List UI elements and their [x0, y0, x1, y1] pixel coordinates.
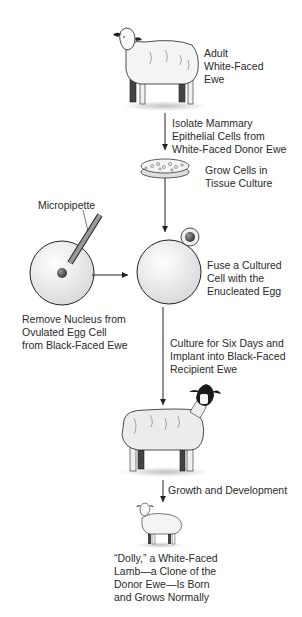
label-line: Fuse a Cultured [207, 259, 282, 272]
label-line: Epithelial Cells from [172, 130, 286, 143]
label-line: White-Faced Donor Ewe [172, 143, 286, 156]
label-line: Tissue Culture [205, 177, 272, 190]
egg-cell-with-micropipette [30, 210, 100, 305]
label-line: Cell with the [207, 272, 282, 285]
label-line: Adult [204, 47, 264, 60]
label-line: Recipient Ewe [170, 363, 286, 376]
label-growth-development: Growth and Development [168, 484, 287, 497]
label-culture-implant: Culture for Six Days and Implant into Bl… [170, 337, 286, 376]
label-remove-nucleus: Remove Nucleus from Ovulated Egg Cell fr… [22, 313, 128, 352]
label-line: White-Faced [204, 60, 264, 73]
label-fuse-cell: Fuse a Cultured Cell with the Enucleated… [207, 259, 282, 298]
label-line: from Black-Faced Ewe [22, 339, 128, 352]
label-dolly-born: “Dolly,” a White-Faced Lamb—a Clone of t… [114, 552, 218, 604]
label-line: Isolate Mammary [172, 117, 286, 130]
fused-egg-cell [137, 228, 201, 304]
label-isolate-cells: Isolate Mammary Epithelial Cells from Wh… [172, 117, 286, 156]
label-line: Donor Ewe—Is Born [114, 578, 218, 591]
diagram-canvas [0, 0, 302, 617]
black-faced-recipient-ewe-illustration [120, 384, 221, 477]
label-line: and Grows Normally [114, 591, 218, 604]
label-micropipette: Micropipette [38, 199, 95, 212]
label-line: Implant into Black-Faced [170, 350, 286, 363]
label-line: Lamb—a Clone of the [114, 565, 218, 578]
label-line: Micropipette [38, 199, 95, 212]
label-line: Ewe [204, 73, 264, 86]
label-line: Growth and Development [168, 484, 287, 497]
label-line: Grow Cells in [205, 164, 272, 177]
label-grow-cells: Grow Cells in Tissue Culture [205, 164, 272, 190]
label-line: “Dolly,” a White-Faced [114, 552, 218, 565]
label-line: Ovulated Egg Cell [22, 326, 128, 339]
label-adult-ewe: Adult White-Faced Ewe [204, 47, 264, 86]
label-line: Enucleated Egg [207, 285, 282, 298]
adult-white-faced-ewe-illustration [113, 28, 207, 111]
label-line: Culture for Six Days and [170, 337, 286, 350]
dolly-lamb-illustration [136, 503, 184, 548]
label-line: Remove Nucleus from [22, 313, 128, 326]
culture-dish-illustration [141, 159, 189, 178]
